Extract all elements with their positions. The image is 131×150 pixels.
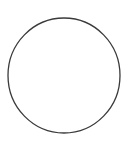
image-canvas	[0, 0, 131, 150]
canvas-background	[0, 0, 131, 150]
figure-container	[0, 0, 131, 150]
